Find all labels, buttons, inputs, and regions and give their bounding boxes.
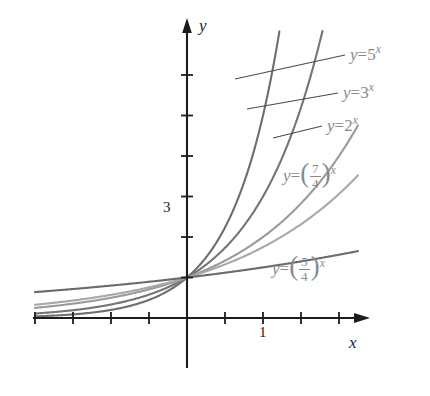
label-3x-exponent: x xyxy=(369,81,374,94)
label-5x-exponent: x xyxy=(376,43,381,56)
label-2x-base: 2 xyxy=(344,116,353,135)
label-74x-numerator: 7 xyxy=(310,162,321,176)
label-54x-paren-open: ( xyxy=(289,251,298,281)
curve-label-5x: y=5x xyxy=(350,44,381,63)
label-54x-exponent: x xyxy=(320,257,325,270)
axes-group xyxy=(33,18,370,368)
x-axis-label: x xyxy=(349,333,357,353)
label-5x-lhs: y xyxy=(350,45,358,64)
label-54x-fraction: 54 xyxy=(299,255,310,283)
y-axis-label: y xyxy=(199,16,207,36)
leader-line-3x xyxy=(247,93,338,109)
label-5x-equals: = xyxy=(358,45,368,64)
label-54x-lhs: y xyxy=(272,259,280,278)
exponential-functions-figure: y x 3 1 y=5x y=3x y=2x y=(74)x y=(54)x xyxy=(0,0,430,396)
label-74x-exponent: x xyxy=(331,164,336,177)
leader-line-2x xyxy=(273,126,322,138)
label-5x-base: 5 xyxy=(367,45,376,64)
label-54x-paren-close: ) xyxy=(311,251,320,281)
curve-label-5-over-4-x: y=(54)x xyxy=(272,256,325,284)
label-74x-lhs: y xyxy=(283,166,291,185)
label-54x-numerator: 5 xyxy=(299,255,310,269)
label-3x-base: 3 xyxy=(360,83,369,102)
curve-label-3x: y=3x xyxy=(343,82,374,101)
curve-label-7-over-4-x: y=(74)x xyxy=(283,163,336,191)
label-2x-exponent: x xyxy=(353,114,358,127)
label-74x-denominator: 4 xyxy=(310,176,321,191)
x-axis-arrowhead xyxy=(354,313,370,323)
label-2x-equals: = xyxy=(335,116,345,135)
label-74x-fraction: 74 xyxy=(310,162,321,190)
x-tick-label-1: 1 xyxy=(259,324,267,341)
label-74x-paren-close: ) xyxy=(322,158,331,188)
leader-line-5x xyxy=(235,55,345,79)
y-axis-arrowhead xyxy=(182,18,192,33)
label-2x-lhs: y xyxy=(327,116,335,135)
label-74x-paren-open: ( xyxy=(300,158,309,188)
label-74x-equals: = xyxy=(291,166,301,185)
label-3x-lhs: y xyxy=(343,83,351,102)
curve-5 xyxy=(35,31,279,316)
y-tick-label-3: 3 xyxy=(163,199,171,216)
label-54x-equals: = xyxy=(280,259,290,278)
label-3x-equals: = xyxy=(351,83,361,102)
curve-label-2x: y=2x xyxy=(327,115,358,134)
label-54x-denominator: 4 xyxy=(299,269,310,284)
